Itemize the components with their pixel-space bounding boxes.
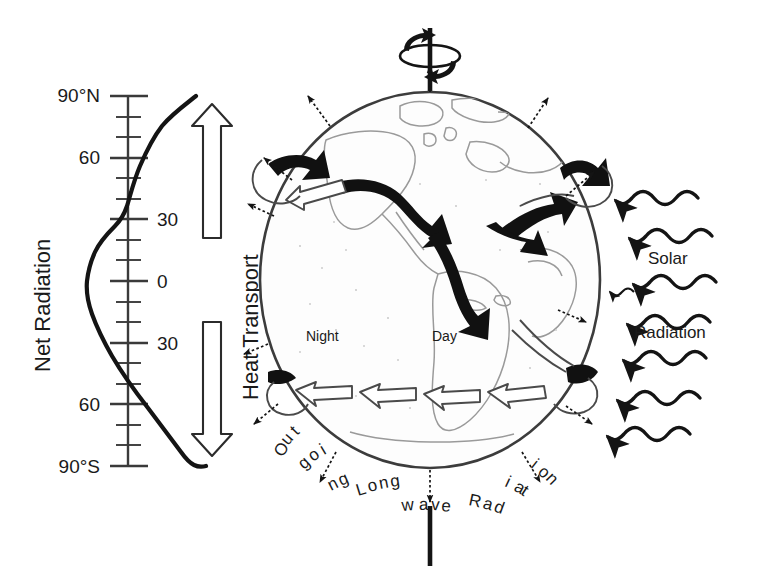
svg-text:a: a — [419, 495, 429, 514]
solar-label-line1: Solar — [648, 249, 688, 268]
night-label: Night — [306, 328, 339, 344]
ytick-label-90n: 90°N — [58, 85, 100, 106]
ytick-label-30n: 30 — [157, 209, 178, 230]
svg-text:e: e — [441, 496, 452, 516]
ytick-label-0: 0 — [157, 271, 168, 292]
radiation-balance-diagram: 90°N 60 30 0 30 60 90°S Net Radiation He… — [0, 0, 760, 588]
figure-canvas: 90°N 60 30 0 30 60 90°S Net Radiation He… — [0, 0, 760, 588]
svg-text:w: w — [400, 495, 416, 515]
net-radiation-axis-label: Net Radiation — [30, 239, 55, 372]
svg-text:v: v — [431, 495, 441, 514]
ytick-label-60s: 60 — [79, 394, 100, 415]
globe-sphere — [260, 92, 600, 468]
solar-label-line2: Radiation — [634, 323, 706, 342]
day-label: Day — [432, 328, 457, 344]
ytick-label-90s: 90°S — [59, 456, 100, 477]
ytick-label-30s: 30 — [157, 333, 178, 354]
ytick-label-60n: 60 — [79, 147, 100, 168]
